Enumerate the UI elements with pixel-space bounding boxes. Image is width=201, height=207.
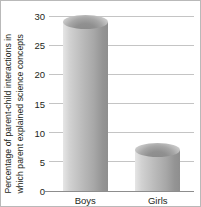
x-axis-label-boys: Boys — [63, 195, 108, 206]
y-axis-tick-label: 30 — [34, 11, 45, 22]
y-axis-tick-label: 15 — [34, 98, 45, 109]
plot-area: 051015202530 — [49, 16, 194, 191]
bar-boys — [63, 22, 108, 191]
bar-chart: Percentage of parent-child interactions … — [0, 0, 201, 207]
y-axis-tick-label: 10 — [34, 127, 45, 138]
bar-girls — [135, 150, 180, 191]
bar-top-ellipse — [63, 15, 108, 29]
y-axis-tick-label: 25 — [34, 40, 45, 51]
bar-top-ellipse — [135, 143, 180, 157]
x-axis-label-girls: Girls — [135, 195, 180, 206]
y-axis-title: Percentage of parent-child interactions … — [1, 1, 29, 197]
y-axis-tick-label: 0 — [40, 186, 45, 197]
y-axis-tick-label: 20 — [34, 69, 45, 80]
y-axis-title-line-1: Percentage of parent-child interactions … — [4, 34, 13, 194]
y-axis-title-line-2: which parent explained science concepts — [16, 34, 25, 194]
y-axis-tick-label: 5 — [40, 156, 45, 167]
